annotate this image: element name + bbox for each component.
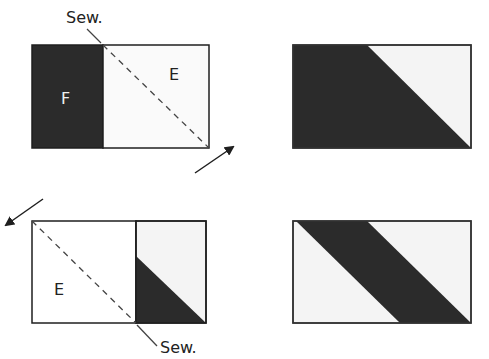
block-top-right bbox=[293, 45, 471, 148]
block-bottom-right bbox=[293, 221, 471, 323]
label-e-top: E bbox=[169, 67, 179, 83]
arrow-right-icon bbox=[195, 147, 233, 173]
sew-leader bbox=[137, 325, 157, 346]
label-f: F bbox=[61, 91, 70, 107]
block-top-left bbox=[32, 29, 209, 148]
sew-label-bottom: Sew. bbox=[160, 340, 197, 356]
sew-label-top: Sew. bbox=[66, 10, 103, 26]
sew-leader bbox=[87, 29, 101, 43]
label-e-bottom: E bbox=[54, 282, 64, 298]
quilt-diagram bbox=[0, 0, 489, 359]
